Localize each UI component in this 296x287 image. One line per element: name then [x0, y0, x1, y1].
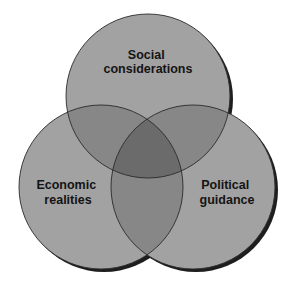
label-economic-line2: realities	[44, 193, 91, 207]
label-economic: Economic realities	[36, 178, 99, 207]
label-political: Political guidance	[200, 178, 255, 207]
label-economic-line1: Economic	[36, 178, 96, 192]
label-social-line1: Social	[128, 48, 165, 62]
venn-diagram: Social considerations Economic realities…	[0, 0, 296, 287]
label-political-line2: guidance	[200, 193, 255, 207]
label-political-line1: Political	[201, 178, 249, 192]
label-social-line2: considerations	[104, 62, 193, 76]
